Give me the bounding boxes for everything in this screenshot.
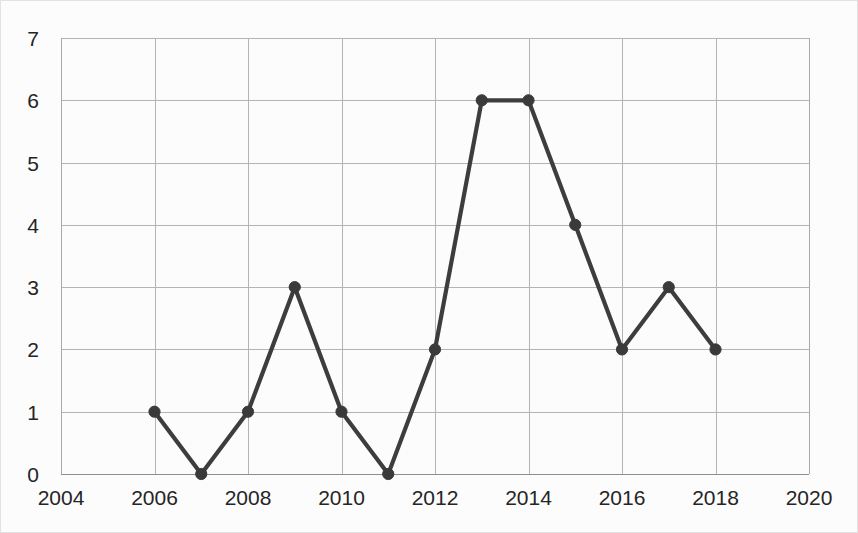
x-tick-label-2010: 2010 bbox=[318, 486, 365, 509]
y-axis-tick-labels: 01234567 bbox=[27, 27, 39, 486]
x-tick-label-2004: 2004 bbox=[38, 486, 85, 509]
x-tick-label-2020: 2020 bbox=[786, 486, 833, 509]
data-point-2007 bbox=[196, 468, 207, 479]
data-point-2009 bbox=[289, 282, 300, 293]
x-tick-label-2006: 2006 bbox=[131, 486, 178, 509]
data-point-2018 bbox=[710, 344, 721, 355]
y-tick-label-4: 4 bbox=[27, 214, 39, 237]
data-point-2015 bbox=[570, 219, 581, 230]
x-tick-label-2008: 2008 bbox=[225, 486, 272, 509]
data-point-2010 bbox=[336, 406, 347, 417]
data-point-2011 bbox=[383, 468, 394, 479]
data-point-2006 bbox=[149, 406, 160, 417]
grid-vertical bbox=[62, 38, 810, 474]
y-tick-label-3: 3 bbox=[27, 276, 39, 299]
data-point-2008 bbox=[242, 406, 253, 417]
y-tick-label-0: 0 bbox=[27, 463, 39, 486]
y-tick-label-1: 1 bbox=[27, 401, 39, 424]
data-point-2012 bbox=[429, 344, 440, 355]
x-tick-label-2014: 2014 bbox=[505, 486, 552, 509]
x-tick-label-2012: 2012 bbox=[412, 486, 459, 509]
data-point-2017 bbox=[663, 282, 674, 293]
line-chart: 01234567 2004200620082010201220142016201… bbox=[1, 1, 858, 533]
chart-figure: 01234567 2004200620082010201220142016201… bbox=[0, 0, 858, 533]
y-tick-label-2: 2 bbox=[27, 338, 39, 361]
data-point-2013 bbox=[476, 95, 487, 106]
data-point-2014 bbox=[523, 95, 534, 106]
x-tick-label-2016: 2016 bbox=[599, 486, 646, 509]
y-tick-label-7: 7 bbox=[27, 27, 39, 50]
data-point-2016 bbox=[616, 344, 627, 355]
y-tick-label-6: 6 bbox=[27, 89, 39, 112]
y-tick-label-5: 5 bbox=[27, 152, 39, 175]
x-axis-tick-labels: 200420062008201020122014201620182020 bbox=[38, 486, 833, 509]
x-tick-label-2018: 2018 bbox=[692, 486, 739, 509]
